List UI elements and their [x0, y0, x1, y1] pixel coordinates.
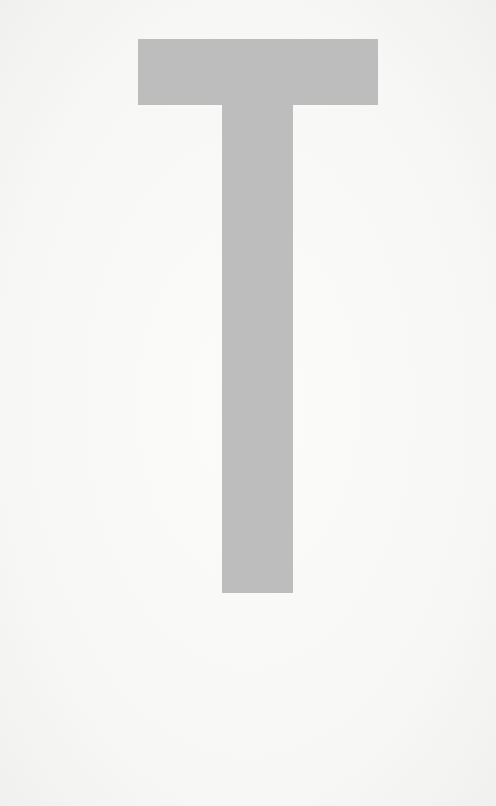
letter-t-crossbar	[138, 39, 378, 105]
background-canvas	[0, 0, 496, 806]
letter-t-stem	[222, 104, 293, 593]
